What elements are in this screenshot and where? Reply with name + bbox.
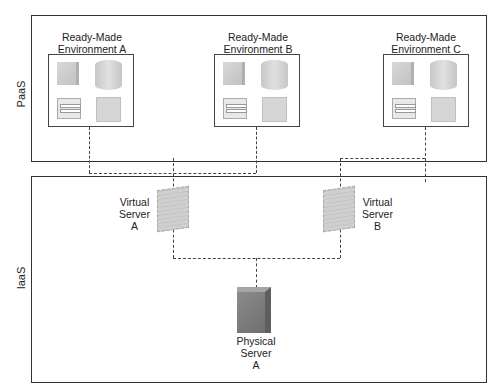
env-c-title: Ready-Made Environment C (366, 31, 486, 55)
connector-physical (256, 258, 257, 288)
database-icon (430, 60, 457, 90)
connector-env-a (89, 127, 90, 173)
virtual-server-b-icon (323, 186, 355, 232)
database-icon (261, 60, 288, 90)
connector-env-b (256, 127, 257, 173)
package-icon (431, 97, 456, 122)
database-icon (95, 60, 122, 90)
container-icon (57, 62, 79, 85)
physical-server-icon (237, 287, 271, 333)
connector-env-c (425, 127, 426, 182)
container-icon (392, 62, 414, 85)
form-icon (57, 98, 81, 119)
env-a-title: Ready-Made Environment A (32, 31, 152, 55)
form-icon (223, 98, 247, 119)
virtual-server-b-label: Virtual Server B (355, 196, 400, 232)
virtual-server-a-label: Virtual Server A (112, 196, 157, 232)
env-a (48, 54, 134, 127)
package-icon (96, 97, 121, 122)
iaas-label: IaaS (15, 267, 27, 290)
env-b (214, 54, 300, 127)
env-c (383, 54, 469, 127)
container-icon (223, 62, 245, 85)
virtual-server-a-icon (157, 186, 189, 232)
form-icon (392, 98, 416, 119)
env-b-title: Ready-Made Environment B (198, 31, 318, 55)
paas-label: PaaS (15, 81, 27, 108)
physical-server-label: Physical Server A (230, 335, 282, 371)
connector-c-horizontal (340, 158, 425, 159)
package-icon (262, 97, 287, 122)
